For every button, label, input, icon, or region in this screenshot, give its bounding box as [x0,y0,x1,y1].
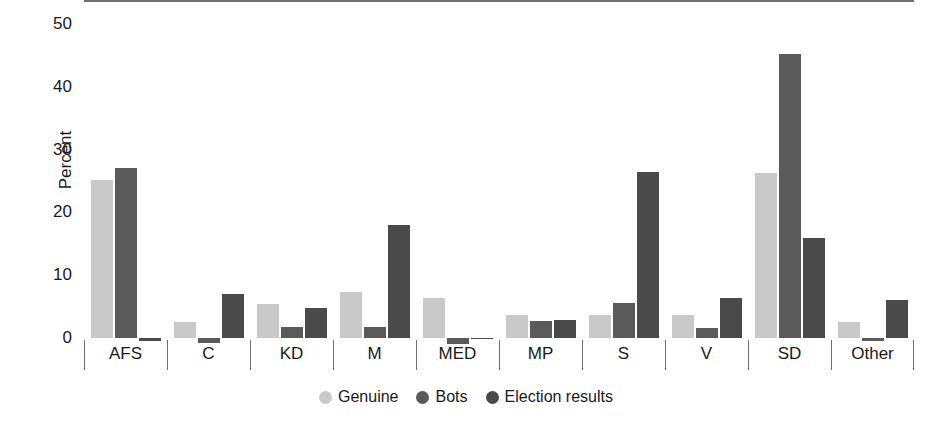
bar-genuine-other[interactable] [838,322,860,338]
bar-group-bars [167,24,250,338]
x-axis-label-med: MED [416,344,499,364]
bar-genuine-s[interactable] [589,315,611,338]
bar-group-sd [748,24,831,338]
bar-group-afs [84,24,167,338]
bar-election-results-c[interactable] [222,294,244,338]
bar-election-results-m[interactable] [388,225,410,338]
bar-group-c [167,24,250,338]
bar-bots-kd[interactable] [281,327,303,338]
legend-item-bots[interactable]: Bots [416,388,467,406]
bar-group-bars [831,24,914,338]
bar-genuine-kd[interactable] [257,304,279,338]
bar-group-bars [84,24,167,338]
bar-group-bars [582,24,665,338]
legend-swatch-icon [319,391,332,404]
x-axis-label-other: Other [831,344,914,364]
x-axis-label-afs: AFS [84,344,167,364]
bar-group-bars [333,24,416,338]
bar-group-s [582,24,665,338]
legend-label: Bots [435,388,467,406]
x-axis-label-kd: KD [250,344,333,364]
x-axis-category-labels: AFSCKDMMEDMPSVSDOther [84,340,914,376]
chart-legend: GenuineBotsElection results [0,388,942,406]
bar-genuine-c[interactable] [174,322,196,338]
bar-group-v [665,24,748,338]
legend-item-election-results[interactable]: Election results [486,388,614,406]
y-tick-label-0: 0 [28,329,72,346]
bar-bots-afs[interactable] [115,168,137,338]
bar-bots-mp[interactable] [530,321,552,338]
bar-bots-s[interactable] [613,303,635,338]
bar-group-med [416,24,499,338]
bar-group-bars [499,24,582,338]
bar-election-results-med[interactable] [471,338,493,339]
x-axis-label-sd: SD [748,344,831,364]
bar-group-bars [250,24,333,338]
bar-genuine-afs[interactable] [91,180,113,338]
bar-genuine-m[interactable] [340,292,362,338]
y-tick-label-20: 20 [28,203,72,220]
x-axis-label-m: M [333,344,416,364]
bar-group-mp [499,24,582,338]
x-axis-label-s: S [582,344,665,364]
legend-swatch-icon [416,391,429,404]
bar-election-results-sd[interactable] [803,238,825,338]
bar-bots-m[interactable] [364,327,386,338]
bar-genuine-mp[interactable] [506,315,528,338]
x-axis-label-v: V [665,344,748,364]
x-axis-label-c: C [167,344,250,364]
bar-bots-sd[interactable] [779,54,801,338]
y-tick-label-40: 40 [28,78,72,95]
bar-election-results-v[interactable] [720,298,742,338]
y-tick-label-50: 50 [28,15,72,32]
bar-group-bars [416,24,499,338]
bar-group-m [333,24,416,338]
legend-label: Election results [505,388,614,406]
bar-group-kd [250,24,333,338]
y-tick-label-10: 10 [28,266,72,283]
bar-genuine-sd[interactable] [755,173,777,338]
bar-group-bars [748,24,831,338]
bar-chart: Percent 01020304050 AFSCKDMMEDMPSVSDOthe… [0,0,942,439]
legend-swatch-icon [486,391,499,404]
bar-bots-v[interactable] [696,328,718,338]
legend-label: Genuine [338,388,399,406]
x-axis-label-mp: MP [499,344,582,364]
bar-election-results-kd[interactable] [305,308,327,338]
bar-election-results-mp[interactable] [554,320,576,338]
bar-group-bars [665,24,748,338]
bar-group-other [831,24,914,338]
plot-area [84,24,914,338]
bar-genuine-med[interactable] [423,298,445,338]
y-tick-label-30: 30 [28,141,72,158]
bar-election-results-other[interactable] [886,300,908,338]
x-axis-baseline [84,0,914,2]
legend-item-genuine[interactable]: Genuine [319,388,399,406]
bar-genuine-v[interactable] [672,315,694,338]
bar-election-results-s[interactable] [637,172,659,338]
